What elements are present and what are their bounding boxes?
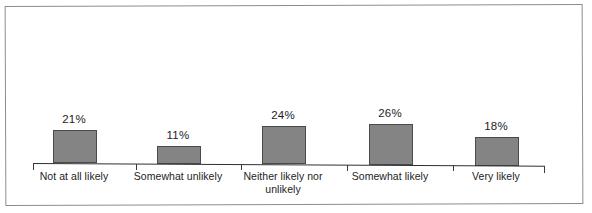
axis-tick-start (33, 163, 34, 170)
bar-value-label: 18% (444, 120, 548, 132)
bar-group: 18% Very likely (444, 0, 548, 213)
bar-value-label: 21% (22, 113, 126, 125)
category-label: Somewhat likely (331, 170, 449, 183)
category-label: Neither likely nor unlikely (224, 170, 342, 195)
category-label-line: unlikely (265, 183, 300, 195)
bar-group: 11% Somewhat unlikely (126, 0, 230, 213)
category-label: Not at all likely (15, 170, 133, 183)
bar-group: 24% Neither likely nor unlikely (231, 0, 335, 213)
axis-tick (241, 164, 242, 170)
axis-tick-end (544, 166, 545, 173)
axis-tick (136, 164, 137, 170)
category-label-line: Somewhat unlikely (134, 170, 222, 182)
category-label-line: Neither likely nor (243, 170, 322, 182)
axis-tick (453, 165, 454, 171)
bar-group: 21% Not at all likely (22, 0, 126, 213)
bar (53, 130, 97, 163)
bar-value-label: 26% (338, 107, 442, 119)
bar-series: 21% Not at all likely 11% Somewhat unlik… (0, 0, 592, 213)
category-label-line: Very likely (472, 170, 520, 182)
bar (262, 126, 306, 164)
category-label: Very likely (437, 170, 555, 183)
chart-screenshot: 21% Not at all likely 11% Somewhat unlik… (0, 0, 592, 213)
plot-area: 21% Not at all likely 11% Somewhat unlik… (0, 0, 592, 213)
bar-group: 26% Somewhat likely (338, 0, 442, 213)
axis-tick (347, 165, 348, 171)
category-label-line: Somewhat likely (352, 170, 429, 182)
category-label-line: Not at all likely (40, 170, 109, 182)
bar (369, 124, 413, 165)
bar (475, 137, 519, 166)
bar-value-label: 11% (126, 129, 230, 141)
bar (157, 146, 201, 164)
category-label: Somewhat unlikely (119, 170, 237, 183)
bar-value-label: 24% (231, 109, 335, 121)
